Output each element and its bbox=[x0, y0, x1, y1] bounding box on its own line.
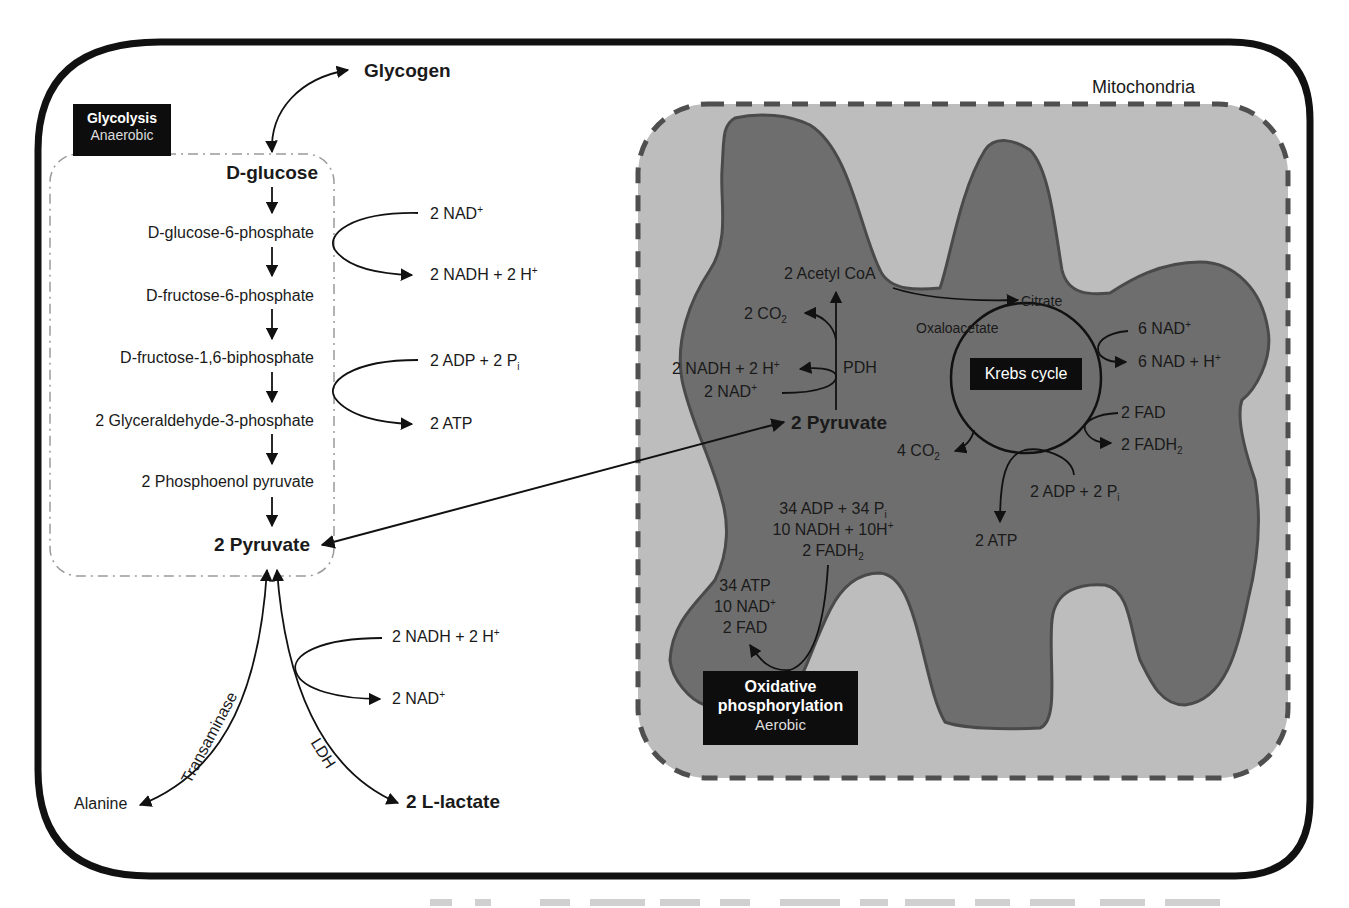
ldh-nad-label: 2 NAD+ bbox=[392, 690, 445, 708]
acetyl-coa-label: 2 Acetyl CoA bbox=[784, 265, 876, 283]
glycolysis-title: Glycolysis bbox=[73, 110, 171, 127]
lactate-label: 2 L-lactate bbox=[406, 791, 500, 813]
pdh-label: PDH bbox=[843, 359, 877, 377]
krebs-cycle-label: Krebs cycle bbox=[970, 358, 1082, 390]
arrow-adp-atp bbox=[333, 360, 418, 424]
nad-in-label: 2 NAD+ bbox=[430, 205, 483, 223]
oxphos-subtitle: Aerobic bbox=[703, 715, 858, 734]
glycogen-label: Glycogen bbox=[364, 60, 451, 82]
arrow-transaminase bbox=[140, 570, 267, 805]
arrow-glycogen-glucose bbox=[272, 70, 348, 152]
glycolysis-subtitle: Anaerobic bbox=[73, 127, 171, 144]
glycolysis-label-box: Glycolysis Anaerobic bbox=[73, 104, 171, 156]
diagram-shapes bbox=[0, 0, 1349, 908]
mitochondria-label: Mitochondria bbox=[1092, 78, 1195, 96]
krebs-adp-label: 2 ADP + 2 Pi bbox=[1030, 483, 1120, 501]
adp-in-label: 2 ADP + 2 Pi bbox=[430, 352, 520, 370]
d-glucose-label: D-glucose bbox=[170, 162, 318, 184]
krebs-fad-label: 2 FAD bbox=[1121, 404, 1165, 422]
alanine-label: Alanine bbox=[74, 795, 127, 813]
atp-out-label: 2 ATP bbox=[430, 415, 472, 433]
oxphos-title-2: phosphorylation bbox=[703, 696, 858, 715]
oxaloacetate-label: Oxaloacetate bbox=[916, 320, 999, 336]
oxphos-inputs: 34 ADP + 34 Pi 10 NADH + 10H+ 2 FADH2 bbox=[748, 500, 918, 560]
citrate-label: Citrate bbox=[1021, 293, 1062, 309]
krebs-co2-label: 4 CO2 bbox=[897, 442, 940, 460]
arrow-nadh-nad-ldh bbox=[295, 638, 382, 699]
krebs-fadh2-label: 2 FADH2 bbox=[1121, 436, 1183, 454]
ldh-nadh-label: 2 NADH + 2 H+ bbox=[392, 628, 500, 646]
pyruvate-mito-label: 2 Pyruvate bbox=[791, 412, 887, 434]
nadh-out-label: 2 NADH + 2 H+ bbox=[430, 266, 538, 284]
pdh-nadh-label: 2 NADH + 2 H+ bbox=[672, 360, 780, 378]
oxphos-outputs: 34 ATP 10 NAD+ 2 FAD bbox=[700, 577, 790, 637]
step-pep: 2 Phosphoenol pyruvate bbox=[40, 473, 314, 491]
arrow-nad-nadh bbox=[333, 213, 418, 275]
oxphos-label-box: Oxidative phosphorylation Aerobic bbox=[703, 671, 858, 745]
step-g3p: 2 Glyceraldehyde-3-phosphate bbox=[40, 412, 314, 430]
pdh-co2-label: 2 CO2 bbox=[744, 305, 787, 323]
krebs-nad-in-label: 6 NAD+ bbox=[1138, 320, 1191, 338]
pyruvate-cytosol-label: 2 Pyruvate bbox=[120, 534, 310, 556]
pdh-nad-label: 2 NAD+ bbox=[704, 383, 757, 401]
krebs-atp-label: 2 ATP bbox=[975, 532, 1017, 550]
step-f16bp: D-fructose-1,6-biphosphate bbox=[40, 349, 314, 367]
caption-fragments bbox=[430, 899, 1220, 906]
oxphos-title-1: Oxidative bbox=[703, 677, 858, 696]
arrow-ldh bbox=[277, 570, 398, 803]
krebs-nad-out-label: 6 NAD + H+ bbox=[1138, 353, 1221, 371]
step-g6p: D-glucose-6-phosphate bbox=[40, 224, 314, 242]
metabolism-diagram: Glycolysis Anaerobic Glycogen D-glucose … bbox=[0, 0, 1349, 908]
step-f6p: D-fructose-6-phosphate bbox=[40, 287, 314, 305]
